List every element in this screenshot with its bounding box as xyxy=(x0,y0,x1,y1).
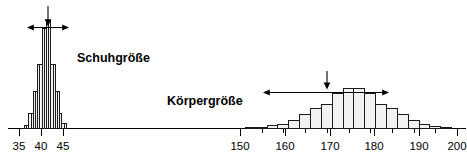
histogram-bar xyxy=(311,109,322,129)
histogram-bar xyxy=(376,104,387,128)
histogram-bar xyxy=(354,89,365,129)
right-series-label: Körpergröße xyxy=(167,94,243,108)
histogram-bar xyxy=(245,128,256,129)
histogram-bar xyxy=(267,126,278,129)
left-axis-tick-labels: 354045 xyxy=(13,140,70,152)
axis-tick-label: 200 xyxy=(447,140,466,152)
histogram-bar xyxy=(321,104,332,128)
axis-tick-label: 180 xyxy=(364,140,383,152)
right-axis-ticks xyxy=(241,129,458,136)
left-histogram-bars xyxy=(25,21,67,129)
axis-tick-label: 170 xyxy=(320,140,339,152)
right-annotation-arrows xyxy=(263,71,389,96)
axis-tick-label: 150 xyxy=(230,140,249,152)
histogram-bar xyxy=(343,89,354,129)
histogram-bar xyxy=(278,124,289,128)
histogram-bar xyxy=(408,120,419,128)
histogram-bar xyxy=(386,109,397,129)
histogram-figure: 354045 150160170180190200 xyxy=(0,0,467,164)
right-mean-arrow-icon xyxy=(324,71,331,89)
axis-tick-label: 160 xyxy=(275,140,294,152)
left-axis-ticks xyxy=(20,129,64,136)
axis-tick-label: 40 xyxy=(35,140,48,152)
histogram-bar xyxy=(289,120,300,128)
left-series-label: Schuhgröße xyxy=(77,51,150,65)
histogram-bar xyxy=(64,123,66,128)
histogram-bar xyxy=(365,94,376,129)
axis-tick-label: 35 xyxy=(13,140,26,152)
histogram-bar xyxy=(332,94,343,129)
histogram-bar xyxy=(419,124,430,128)
right-histogram-bars xyxy=(245,89,451,129)
histogram-bar xyxy=(300,114,311,128)
axis-tick-label: 45 xyxy=(57,140,70,152)
axis-tick-label: 190 xyxy=(409,140,428,152)
histogram-bar xyxy=(256,127,267,128)
histogram-bar xyxy=(441,127,452,128)
histogram-bar xyxy=(397,114,408,128)
figure-canvas: 354045 150160170180190200 xyxy=(0,0,467,164)
right-axis-tick-labels: 150160170180190200 xyxy=(230,140,466,152)
histogram-bar xyxy=(430,126,441,128)
